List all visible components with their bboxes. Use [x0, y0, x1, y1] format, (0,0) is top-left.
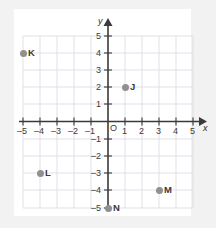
- x-tick-label--2: –2: [68, 127, 78, 136]
- x-axis-label: x: [203, 124, 208, 133]
- y-tick-label-2: 2: [96, 83, 101, 92]
- plot-svg: [0, 0, 216, 228]
- y-tick-label--2: –2: [91, 152, 101, 161]
- x-tick-label-5: 5: [190, 127, 195, 136]
- x-tick-label-4: 4: [173, 127, 178, 136]
- y-tick-label--5: –5: [91, 204, 101, 213]
- y-tick-label--1: –1: [91, 135, 101, 144]
- point-label-j: J: [130, 82, 135, 92]
- y-axis-label: y: [98, 17, 103, 26]
- point-dot-l: [37, 170, 44, 177]
- x-tick-label--3: –3: [51, 127, 61, 136]
- point-dot-m: [156, 187, 163, 194]
- x-tick-label-3: 3: [156, 127, 161, 136]
- x-tick-label-1: 1: [122, 127, 127, 136]
- y-tick-label-1: 1: [96, 100, 101, 109]
- point-label-n: N: [113, 203, 120, 213]
- y-axis-arrowhead: [104, 18, 113, 26]
- y-tick-label--3: –3: [91, 169, 101, 178]
- point-label-l: L: [45, 168, 51, 178]
- point-dot-k: [20, 50, 27, 57]
- point-label-k: K: [28, 48, 35, 58]
- point-dot-n: [105, 205, 112, 212]
- x-tick-label-2: 2: [139, 127, 144, 136]
- y-tick-label-3: 3: [96, 66, 101, 75]
- y-tick-label-5: 5: [96, 32, 101, 41]
- x-tick-label--4: –4: [34, 127, 44, 136]
- x-tick-label--5: –5: [17, 127, 27, 136]
- coordinate-plane-figure: –5 –4 –3 –2 –1 1 2 3 4 5 5 4 3 2 1 –1 –2…: [0, 0, 216, 228]
- y-tick-label-4: 4: [96, 49, 101, 58]
- point-label-m: M: [164, 185, 172, 195]
- point-dot-j: [122, 84, 129, 91]
- y-tick-label--4: –4: [91, 186, 101, 195]
- origin-label: O: [110, 124, 117, 133]
